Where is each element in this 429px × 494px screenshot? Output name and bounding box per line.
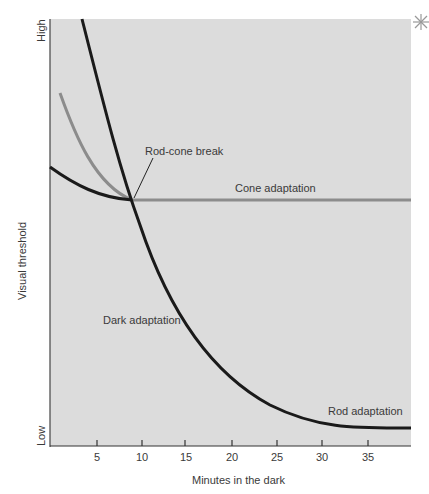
- x-tick-5: 5: [94, 451, 100, 463]
- plot-area: [50, 19, 411, 446]
- x-tick-30: 30: [316, 451, 328, 463]
- rod-cone-break-label: Rod-cone break: [145, 145, 223, 157]
- x-tick-20: 20: [226, 451, 238, 463]
- x-axis-title: Minutes in the dark: [192, 474, 285, 486]
- chart-canvas: [0, 0, 429, 494]
- y-axis-title: Visual threshold: [16, 222, 28, 300]
- dark-adaptation-label: Dark adaptation: [103, 314, 181, 326]
- x-tick-25: 25: [271, 451, 283, 463]
- asterisk-mark: [413, 14, 429, 30]
- rod-adaptation-label: Rod adaptation: [328, 405, 403, 417]
- y-low-label: Low: [35, 426, 47, 446]
- y-high-label: High: [35, 19, 47, 42]
- x-tick-15: 15: [180, 451, 192, 463]
- x-tick-10: 10: [136, 451, 148, 463]
- x-tick-35: 35: [362, 451, 374, 463]
- cone-adaptation-label: Cone adaptation: [235, 182, 316, 194]
